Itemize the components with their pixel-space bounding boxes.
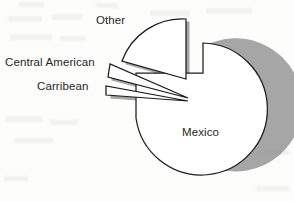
pie-chart-canvas bbox=[0, 0, 294, 202]
pie-label-carribean: Carribean bbox=[37, 80, 88, 93]
pie-label-mexico: Mexico bbox=[182, 126, 219, 139]
pie-label-central-american: Central American bbox=[5, 56, 95, 69]
pie-slice-other[interactable] bbox=[122, 19, 186, 79]
pie-chart-figure: Other Central American Carribean Mexico bbox=[0, 0, 294, 202]
pie-label-other: Other bbox=[96, 14, 125, 27]
